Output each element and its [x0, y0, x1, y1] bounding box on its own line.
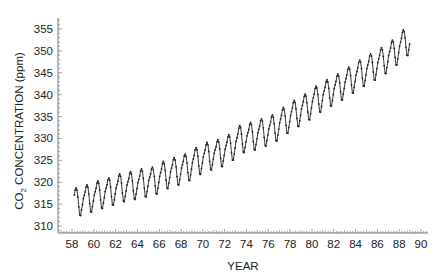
data-point — [396, 64, 398, 66]
data-point — [391, 42, 393, 44]
data-point — [292, 107, 294, 109]
data-point — [234, 147, 236, 149]
data-point — [242, 143, 244, 145]
data-point — [321, 106, 323, 108]
data-point — [334, 84, 336, 86]
data-point — [386, 67, 388, 69]
data-point — [347, 69, 349, 71]
data-point — [76, 189, 78, 191]
data-point — [151, 168, 153, 170]
data-point — [261, 118, 263, 120]
data-point — [390, 47, 392, 49]
data-point — [344, 81, 346, 83]
x-tick-label: 90 — [415, 238, 428, 250]
data-point — [113, 204, 115, 206]
data-point — [397, 58, 399, 60]
x-tick-label: 72 — [218, 238, 231, 250]
data-point — [237, 133, 239, 135]
data-point — [231, 152, 233, 154]
data-point — [192, 158, 194, 160]
data-point — [357, 67, 359, 69]
data-point — [174, 159, 176, 161]
co2-series — [73, 29, 410, 216]
data-point — [364, 80, 366, 82]
data-point — [271, 116, 273, 118]
data-point — [223, 154, 225, 156]
data-point — [168, 182, 170, 184]
x-tick-label: 60 — [87, 238, 100, 250]
x-tick-label: 66 — [153, 238, 166, 250]
x-tick-label: 70 — [196, 238, 209, 250]
y-tick-label: 345 — [34, 67, 53, 79]
data-point — [83, 194, 85, 196]
data-point — [186, 162, 188, 164]
data-point — [147, 185, 149, 187]
data-point — [141, 168, 143, 170]
data-point — [107, 179, 109, 181]
data-point — [218, 141, 220, 143]
data-point — [252, 131, 254, 133]
data-point — [94, 191, 96, 193]
data-point — [183, 155, 185, 157]
data-point — [229, 136, 231, 138]
data-point — [230, 142, 232, 144]
data-point — [402, 32, 404, 34]
data-point — [282, 107, 284, 109]
data-point — [171, 167, 173, 169]
data-point — [227, 136, 229, 138]
data-point — [375, 74, 377, 76]
data-point — [140, 170, 142, 172]
data-point — [139, 175, 141, 177]
data-point — [353, 86, 355, 88]
data-point — [277, 134, 279, 136]
data-point — [294, 102, 296, 104]
data-point — [213, 152, 215, 154]
data-point — [354, 81, 356, 83]
data-point — [196, 149, 198, 151]
data-point — [130, 171, 132, 173]
data-point — [331, 105, 333, 107]
data-point — [280, 118, 282, 120]
x-tick-label: 74 — [240, 238, 253, 250]
data-point — [115, 187, 117, 189]
data-point — [362, 77, 364, 79]
data-point — [282, 109, 284, 111]
data-point — [154, 185, 156, 187]
data-point — [121, 182, 123, 184]
data-point — [369, 55, 371, 57]
data-point — [371, 55, 373, 57]
data-point — [118, 175, 120, 177]
data-point — [322, 100, 324, 102]
data-point — [214, 149, 216, 151]
data-point — [114, 193, 116, 195]
data-point — [306, 102, 308, 104]
data-point — [131, 173, 133, 175]
data-point — [149, 176, 151, 178]
data-point — [215, 146, 217, 148]
data-point — [156, 193, 158, 195]
data-point — [339, 82, 341, 84]
data-point — [238, 127, 240, 129]
data-point — [266, 140, 268, 142]
data-point — [83, 198, 85, 200]
data-point — [145, 196, 147, 198]
data-point — [217, 139, 219, 141]
data-point — [337, 73, 339, 75]
data-point — [283, 109, 285, 111]
data-point — [409, 43, 411, 45]
y-tick-label: 335 — [34, 111, 53, 123]
data-point — [195, 147, 197, 149]
data-point — [207, 144, 209, 146]
data-point — [153, 175, 155, 177]
data-point — [293, 100, 295, 102]
data-point — [325, 81, 327, 83]
data-point — [257, 132, 259, 134]
data-point — [129, 173, 131, 175]
data-point — [267, 134, 269, 136]
data-point — [172, 164, 174, 166]
data-point — [243, 152, 245, 154]
y-tick-label: 355 — [34, 23, 53, 35]
data-point — [241, 133, 243, 135]
data-point — [313, 93, 315, 95]
data-point — [304, 93, 306, 95]
